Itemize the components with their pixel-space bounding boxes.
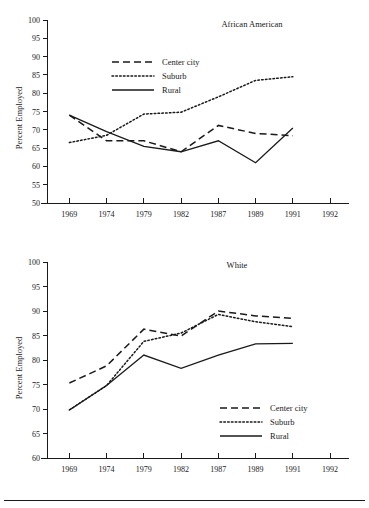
y-axis-label-african-american: Percent Employed	[14, 86, 24, 149]
y-tick-label: 55	[32, 181, 40, 190]
y-tick-group: 6065707580859095100	[28, 258, 47, 463]
legend-label-center-city: Center city	[162, 57, 200, 67]
y-tick-label: 60	[32, 162, 40, 171]
chart-svg-white: 6065707580859095100 19691974197919821987…	[0, 240, 369, 498]
x-tick-group: 19691974197919821987198919911992	[61, 198, 338, 219]
x-tick-label: 1979	[136, 210, 152, 219]
y-tick-label: 100	[28, 16, 40, 25]
y-tick-label: 50	[32, 199, 40, 208]
x-tick-label: 1991	[285, 210, 301, 219]
series-line-rural	[69, 343, 293, 410]
y-tick-label: 60	[32, 454, 40, 463]
x-tick-group: 19691974197919821987198919911992	[61, 453, 338, 474]
x-tick-label: 1974	[99, 210, 115, 219]
legend-label-suburb: Suburb	[162, 71, 187, 81]
x-tick-label: 1992	[322, 465, 338, 474]
chart-panel-white: 6065707580859095100 19691974197919821987…	[0, 240, 369, 498]
x-tick-label: 1991	[285, 465, 301, 474]
y-tick-label: 90	[32, 307, 40, 316]
y-tick-label: 65	[32, 144, 40, 153]
y-tick-label: 75	[32, 108, 40, 117]
chart-svg-african-american: 50556065707580859095100 1969197419791982…	[0, 0, 369, 238]
chart-title-african-american: African American	[221, 19, 283, 29]
x-tick-label: 1982	[173, 210, 189, 219]
figure-two-panel-line-charts: 50556065707580859095100 1969197419791982…	[0, 0, 369, 508]
x-tick-label: 1987	[210, 210, 226, 219]
y-tick-group: 50556065707580859095100	[28, 16, 47, 208]
x-tick-label: 1992	[322, 210, 338, 219]
y-tick-label: 95	[32, 34, 40, 43]
y-axis-label-white: Percent Employed	[14, 336, 24, 399]
legend-white: Center citySuburbRural	[220, 403, 308, 441]
legend-label-center-city: Center city	[270, 403, 308, 413]
legend-label-rural: Rural	[162, 85, 182, 95]
footer-divider	[4, 500, 365, 501]
y-tick-label: 70	[32, 405, 40, 414]
series-group	[69, 311, 293, 410]
y-tick-label: 100	[28, 258, 40, 267]
x-tick-label: 1989	[248, 210, 264, 219]
x-tick-label: 1989	[248, 465, 264, 474]
x-tick-label: 1969	[61, 465, 77, 474]
y-tick-label: 75	[32, 381, 40, 390]
y-tick-label: 65	[32, 430, 40, 439]
x-tick-label: 1974	[99, 465, 115, 474]
y-tick-label: 85	[32, 332, 40, 341]
y-tick-label: 95	[32, 283, 40, 292]
x-tick-label: 1987	[210, 465, 226, 474]
legend-african-american: Center citySuburbRural	[112, 57, 200, 95]
y-tick-label: 85	[32, 71, 40, 80]
legend-label-rural: Rural	[270, 431, 290, 441]
legend-label-suburb: Suburb	[270, 417, 295, 427]
x-tick-label: 1969	[61, 210, 77, 219]
x-tick-label: 1979	[136, 465, 152, 474]
chart-title-white: White	[227, 260, 248, 270]
series-group	[69, 77, 293, 163]
series-line-suburb	[69, 314, 293, 410]
y-tick-label: 90	[32, 53, 40, 62]
y-tick-label: 70	[32, 126, 40, 135]
series-line-suburb	[69, 77, 293, 143]
y-tick-label: 80	[32, 356, 40, 365]
y-tick-label: 80	[32, 89, 40, 98]
x-tick-label: 1982	[173, 465, 189, 474]
chart-panel-african-american: 50556065707580859095100 1969197419791982…	[0, 0, 369, 238]
series-line-rural	[69, 115, 293, 163]
series-line-center-city	[69, 115, 293, 152]
